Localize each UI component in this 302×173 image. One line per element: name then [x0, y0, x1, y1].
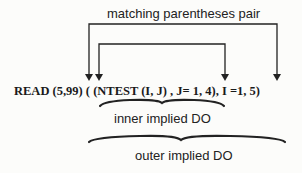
inner-right-arrowhead-icon	[221, 74, 229, 81]
outer-left-arrowhead-icon	[85, 74, 93, 81]
outer-implied-do-label: outer implied DO	[135, 148, 233, 163]
inner-brace-icon	[100, 100, 224, 106]
inner-implied-do-label: inner implied DO	[114, 111, 211, 126]
inner-left-arrowhead-icon	[95, 74, 103, 81]
fortran-implied-do-diagram: matching parentheses pair READ (5,99) ( …	[0, 0, 302, 173]
inner-pair-arrow	[99, 44, 225, 75]
read-statement: READ (5,99) ( (NTEST (I, J) , J= 1, 4), …	[14, 84, 260, 99]
outer-pair-arrow	[89, 24, 277, 75]
outer-brace-icon	[89, 136, 285, 142]
outer-right-arrowhead-icon	[273, 74, 281, 81]
